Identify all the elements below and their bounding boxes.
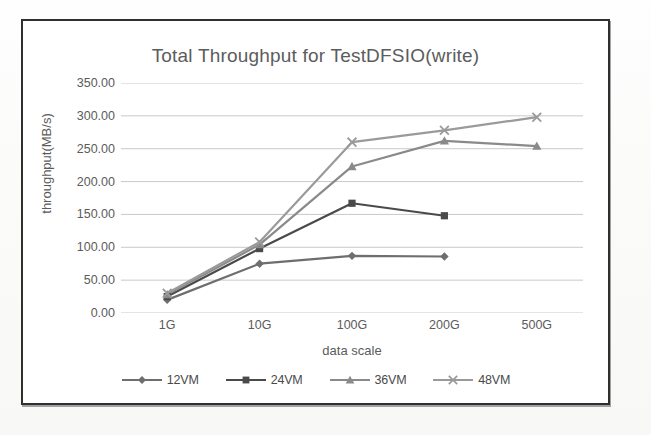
diamond-marker bbox=[440, 252, 448, 260]
chart-legend: 12VM24VM36VM48VM bbox=[23, 373, 608, 387]
y-axis-tick-label: 300.00 bbox=[45, 109, 115, 123]
line-chart-svg bbox=[121, 83, 583, 313]
legend-item-36vm[interactable]: 36VM bbox=[329, 373, 407, 387]
x-axis-tick-label: 10G bbox=[248, 318, 272, 332]
y-axis-tick-label: 50.00 bbox=[45, 273, 115, 287]
legend-item-12vm[interactable]: 12VM bbox=[121, 373, 199, 387]
plot-area bbox=[121, 83, 583, 313]
x-axis-tick-label: 100G bbox=[337, 318, 368, 332]
legend-item-24vm[interactable]: 24VM bbox=[225, 373, 303, 387]
series-lines bbox=[167, 117, 537, 300]
y-axis-tick-label: 150.00 bbox=[45, 207, 115, 221]
chart-title: Total Throughput for TestDFSIO(write) bbox=[23, 45, 608, 67]
legend-label: 48VM bbox=[478, 373, 510, 387]
diamond-marker bbox=[138, 376, 146, 384]
legend-swatch-cross-icon bbox=[432, 373, 474, 387]
y-axis-tick-label: 0.00 bbox=[45, 306, 115, 320]
legend-item-48vm[interactable]: 48VM bbox=[432, 373, 510, 387]
x-axis-tick-label: 500G bbox=[522, 318, 553, 332]
x-axis-tick-labels: 1G10G100G200G500G bbox=[121, 318, 583, 338]
gridlines bbox=[121, 83, 583, 313]
y-axis-tick-label: 100.00 bbox=[45, 240, 115, 254]
x-axis-tick-label: 200G bbox=[429, 318, 460, 332]
legend-swatch-square-icon bbox=[225, 373, 267, 387]
square-marker bbox=[441, 212, 448, 219]
series-markers bbox=[163, 113, 542, 304]
legend-label: 36VM bbox=[375, 373, 407, 387]
y-axis-tick-labels: 0.0050.00100.00150.00200.00250.00300.003… bbox=[43, 83, 115, 313]
figure-frame: Total Throughput for TestDFSIO(write) th… bbox=[21, 19, 610, 405]
legend-label: 24VM bbox=[271, 373, 303, 387]
y-axis-tick-label: 200.00 bbox=[45, 175, 115, 189]
x-axis-title: data scale bbox=[121, 343, 583, 358]
diamond-marker bbox=[255, 260, 263, 268]
legend-swatch-diamond-icon bbox=[121, 373, 163, 387]
chart-page: Total Throughput for TestDFSIO(write) th… bbox=[0, 0, 651, 435]
legend-label: 12VM bbox=[167, 373, 199, 387]
series-line-12vm bbox=[167, 256, 444, 300]
x-axis-tick-label: 1G bbox=[159, 318, 176, 332]
square-marker bbox=[242, 377, 249, 384]
square-marker bbox=[348, 200, 355, 207]
legend-swatch-triangle-icon bbox=[329, 373, 371, 387]
y-axis-tick-label: 250.00 bbox=[45, 142, 115, 156]
y-axis-tick-label: 350.00 bbox=[45, 76, 115, 90]
diamond-marker bbox=[348, 252, 356, 260]
